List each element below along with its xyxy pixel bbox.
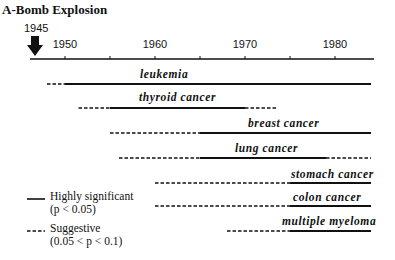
row-label-leukemia: leukemia [140, 68, 188, 80]
legend: Highly significant (p < 0.05) Suggestive… [27, 190, 134, 248]
row-thyroid-cancer: thyroid cancer [79, 91, 277, 108]
row-label-stomach-cancer: stomach cancer [290, 168, 374, 180]
legend-suggestive-label: Suggestive [50, 222, 100, 235]
x-tick-label-1980: 1980 [323, 38, 347, 50]
x-axis-tick-labels: 1950196019701980 [53, 38, 347, 50]
x-tick-label-1960: 1960 [143, 38, 167, 50]
legend-significant-sublabel: (p < 0.05) [50, 203, 96, 216]
event-year-label: 1945 [24, 22, 48, 34]
legend-significant-label: Highly significant [50, 190, 134, 203]
row-label-multiple-myeloma: multiple myeloma [282, 215, 376, 228]
down-arrow-icon [27, 36, 43, 56]
x-tick-label-1970: 1970 [233, 38, 257, 50]
row-label-thyroid-cancer: thyroid cancer [139, 91, 216, 104]
row-lung-cancer: lung cancer [119, 142, 371, 158]
row-label-breast-cancer: breast cancer [248, 117, 319, 129]
cancer-risk-timeline-chart: A-Bomb Explosion 1945 1950196019701980 l… [0, 0, 395, 260]
row-multiple-myeloma: multiple myeloma [227, 215, 376, 231]
row-leukemia: leukemia [47, 68, 371, 84]
legend-suggestive-sublabel: (0.05 < p < 0.1) [50, 235, 123, 248]
row-breast-cancer: breast cancer [110, 117, 371, 133]
cancer-rows: leukemiathyroid cancerbreast cancerlung … [47, 68, 376, 231]
row-label-lung-cancer: lung cancer [235, 142, 298, 155]
row-stomach-cancer: stomach cancer [155, 168, 374, 183]
row-colon-cancer: colon cancer [155, 191, 371, 206]
x-tick-label-1950: 1950 [53, 38, 77, 50]
chart-title: A-Bomb Explosion [2, 2, 108, 17]
row-label-colon-cancer: colon cancer [293, 191, 361, 203]
